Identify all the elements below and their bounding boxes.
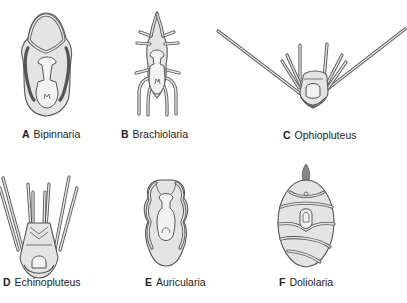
- panel-name: Brachiolaria: [133, 128, 188, 140]
- panel-label-b: BBrachiolaria: [121, 128, 188, 140]
- bipinnaria-illustration: [0, 0, 110, 140]
- brachiolaria-illustration: [110, 0, 210, 140]
- doliolaria-illustration: [250, 150, 407, 290]
- panel-label-a: ABipinnaria: [22, 128, 80, 140]
- panel-letter: F: [279, 276, 285, 288]
- echinoderm-larvae-figure: ABipinnaria BBrachiolaria: [0, 0, 407, 303]
- panel-name: Echinopluteus: [15, 276, 81, 288]
- panel-name: Bipinnaria: [34, 128, 81, 140]
- panel-letter: D: [3, 276, 11, 288]
- panel-label-e: EAuricularia: [145, 276, 206, 288]
- panel-label-c: COphiopluteus: [283, 129, 356, 141]
- panel-a-bipinnaria: ABipinnaria: [0, 0, 110, 140]
- panel-letter: B: [121, 128, 129, 140]
- echinopluteus-illustration: [0, 150, 110, 290]
- panel-name: Doliolaria: [289, 276, 333, 288]
- auricularia-illustration: [110, 150, 220, 290]
- panel-d-echinopluteus: DEchinopluteus: [0, 150, 110, 290]
- panel-name: Ophiopluteus: [295, 129, 357, 141]
- ophiopluteus-illustration: [210, 0, 407, 145]
- panel-b-brachiolaria: BBrachiolaria: [110, 0, 210, 140]
- panel-e-auricularia: EAuricularia: [110, 150, 220, 290]
- panel-name: Auricularia: [156, 276, 206, 288]
- panel-letter: C: [283, 129, 291, 141]
- panel-label-d: DEchinopluteus: [3, 276, 81, 288]
- panel-f-doliolaria: FDoliolaria: [250, 150, 407, 290]
- panel-letter: E: [145, 276, 152, 288]
- panel-letter: A: [22, 128, 30, 140]
- panel-label-f: FDoliolaria: [279, 276, 333, 288]
- panel-c-ophiopluteus: COphiopluteus: [210, 0, 407, 145]
